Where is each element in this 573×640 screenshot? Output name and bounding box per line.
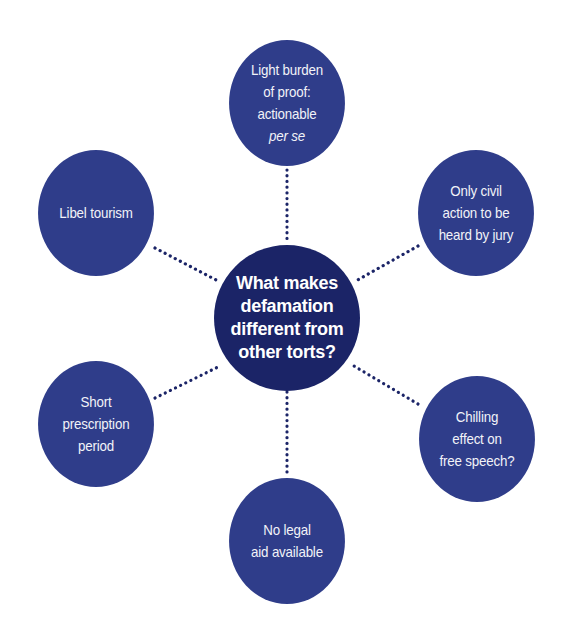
node-chilling-effect: Chilling effect on free speech? <box>419 376 535 502</box>
node-label: Chilling effect on free speech? <box>434 406 520 472</box>
node-libel-tourism: Libel tourism <box>38 150 154 276</box>
connector-top-left <box>155 248 220 282</box>
center-question-node: What makes defamation different from oth… <box>214 245 360 391</box>
node-label: No legal aid available <box>246 519 329 563</box>
node-light-burden-of-proof: Light burden of proof: actionable per se <box>229 40 345 166</box>
connector-bottom-right <box>354 366 418 404</box>
connector-top-right <box>354 246 418 282</box>
node-label: Light burden of proof: actionable <box>251 62 323 122</box>
node-label: Libel tourism <box>54 202 138 224</box>
node-label-italic: per se <box>251 125 323 147</box>
node-label: Only civil action to be heard by jury <box>433 180 519 246</box>
node-short-prescription-period: Short prescription period <box>38 361 154 487</box>
node-no-legal-aid: No legal aid available <box>229 478 345 604</box>
center-label: What makes defamation different from oth… <box>225 272 350 364</box>
node-civil-action-jury: Only civil action to be heard by jury <box>418 150 534 276</box>
node-label: Short prescription period <box>57 391 135 457</box>
connector-bottom-left <box>155 366 220 398</box>
